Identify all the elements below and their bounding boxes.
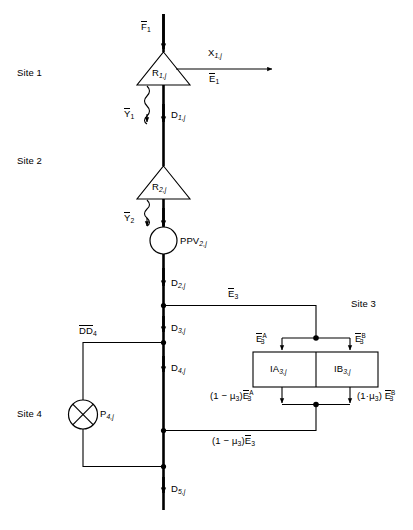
- flow-label-y1: Y1: [124, 109, 134, 119]
- flow-label-y2: Y2: [124, 213, 134, 223]
- node-label-ia3j: IA3,j: [270, 364, 287, 374]
- node-label-r2j: R2,j: [152, 182, 166, 192]
- site3-output-merge: [161, 387, 350, 433]
- diagram-canvas: Site 1 Site 2 Site 3 Site 4 F1 X1,j E1 R…: [0, 0, 413, 530]
- node-label-ppv2j: PPV2,j: [180, 236, 207, 246]
- flow-label-dd4: DD4: [79, 326, 97, 336]
- site4-loop-path: [83, 340, 166, 469]
- diagram-vector-layer: [0, 0, 413, 530]
- flow-label-e3: E3: [228, 289, 238, 299]
- flow-label-out-b: (1·μ3) EB3: [357, 391, 393, 401]
- flow-label-d3j: D3,j: [171, 323, 185, 333]
- flow-label-d2j: D2,j: [171, 278, 185, 288]
- flow-label-out-a: (1 − μ3)EA3: [210, 391, 251, 401]
- site-label-site3: Site 3: [351, 299, 376, 309]
- flow-label-d1j: D1,j: [171, 110, 185, 120]
- node-label-p4j: P4,j: [100, 409, 114, 419]
- flow-label-d4j: D4,j: [171, 363, 185, 373]
- site-label-site1: Site 1: [17, 68, 42, 78]
- node-label-ib3j: IB3,j: [334, 364, 351, 374]
- flow-label-out-combined: (1 − μ3)E3: [212, 436, 255, 446]
- e3-branch-line: [161, 303, 319, 341]
- y2-loss-wavy-arrow: [145, 200, 150, 226]
- site-label-site4: Site 4: [17, 409, 42, 419]
- node-ppv2j-circle: [150, 227, 177, 254]
- flow-label-e3a: EA3: [256, 334, 265, 344]
- flow-label-f1: F1: [141, 22, 151, 32]
- y1-loss-wavy-arrow: [145, 86, 150, 124]
- flow-label-x1j: X1,j: [208, 48, 222, 58]
- flow-label-e3b: EB3: [355, 334, 364, 344]
- flow-label-e1: E1: [209, 74, 219, 84]
- site-label-site2: Site 2: [17, 156, 42, 166]
- node-p4j-circle-x: [69, 400, 98, 429]
- node-label-r1j: R1,j: [152, 68, 166, 78]
- flow-label-d5j: D5,j: [171, 484, 185, 494]
